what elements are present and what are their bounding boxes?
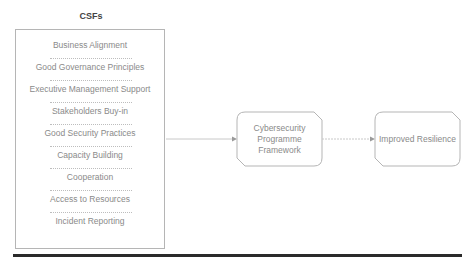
bottom-rule	[13, 254, 462, 257]
framework-label-line2: Programme	[237, 134, 322, 145]
framework-label-line3: Framework	[237, 145, 322, 156]
framework-label-line1: Cybersecurity	[237, 123, 322, 134]
outcome-node-label: Improved Resilience	[375, 134, 460, 145]
framework-node-label: Cybersecurity Programme Framework	[237, 123, 322, 156]
